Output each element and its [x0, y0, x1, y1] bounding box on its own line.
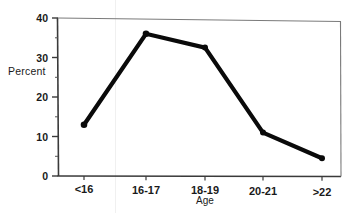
- y-tick-label-40: 40: [22, 13, 48, 24]
- line-chart-figure: 40 30 20 10 0 Percent <16 16-17 18-19 20…: [0, 0, 357, 213]
- x-tick-label-20-21: 20-21: [233, 186, 293, 197]
- data-point-marker: [319, 155, 325, 161]
- x-tick-label-over-22: >22: [292, 187, 352, 198]
- x-tick-label-16-17: 16-17: [116, 185, 176, 196]
- plot-frame: [58, 18, 342, 177]
- data-series-line: [84, 34, 322, 158]
- data-point-marker: [260, 130, 266, 136]
- x-tick-label-under-16: <16: [54, 184, 114, 195]
- y-tick-label-0: 0: [22, 171, 48, 182]
- plot-area: [0, 0, 357, 213]
- y-axis-title: Percent: [8, 66, 46, 77]
- y-tick-label-10: 10: [22, 132, 48, 143]
- data-point-marker: [81, 121, 88, 128]
- x-axis-title: Age: [175, 196, 235, 206]
- data-point-marker: [202, 45, 208, 51]
- y-tick-label-30: 30: [22, 53, 48, 64]
- data-point-marker: [143, 31, 150, 38]
- y-tick-label-20: 20: [22, 92, 48, 103]
